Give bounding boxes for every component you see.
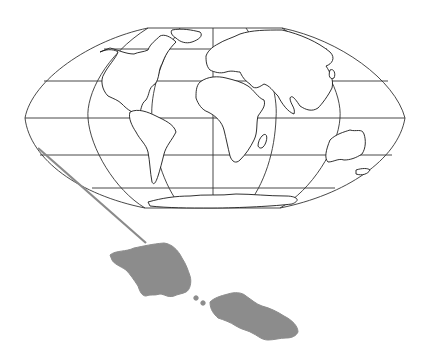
africa [196, 77, 265, 162]
south-america [129, 110, 176, 183]
map-figure [0, 0, 427, 353]
island-savaii [110, 243, 191, 297]
australia [326, 130, 365, 162]
new-zealand [356, 169, 370, 175]
north-america [100, 35, 176, 114]
continents [100, 29, 370, 208]
japan [329, 70, 335, 79]
locator-line [38, 148, 146, 243]
world-locator-map [0, 0, 427, 353]
greenland [171, 29, 201, 43]
island-upolu [210, 293, 298, 340]
madagascar [258, 134, 267, 148]
islet [194, 296, 198, 300]
islet [201, 301, 205, 305]
antarctica [148, 194, 297, 208]
samoa-inset [110, 243, 298, 340]
